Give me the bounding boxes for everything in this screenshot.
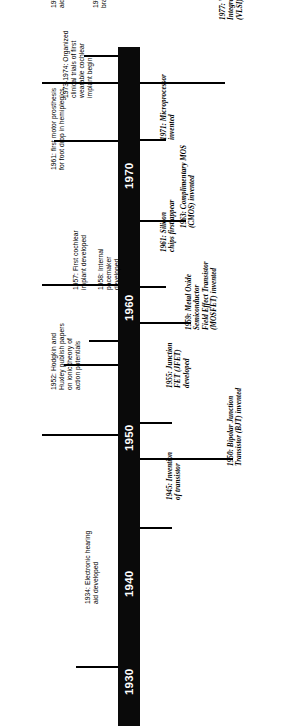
medical-event-line: 1958: Internal bbox=[97, 248, 105, 290]
medical-tick-1952 bbox=[42, 434, 118, 436]
electronics-event-1963: 1963: Complimentary MOS(CMOS) invented bbox=[180, 145, 197, 228]
electronics-event-line: Integrated Circuit bbox=[227, 0, 235, 20]
electronics-event-line: 1961: Silicon bbox=[160, 200, 168, 252]
electronics-event-1961: 1961: Siliconchips first appear bbox=[160, 200, 177, 252]
electronics-event-line: 1959: Metal Oxide bbox=[185, 261, 193, 330]
electronics-event-line: (VLSI) developed bbox=[236, 0, 244, 20]
medical-event-line: 1979: First auditory bbox=[92, 0, 100, 8]
electronics-event-line: (CMOS) invented bbox=[188, 145, 196, 228]
decade-label-1940: 1940 bbox=[118, 575, 140, 597]
medical-event-line: aid made available in Europe bbox=[58, 0, 66, 8]
medical-event-1979: 1979: First auditorybrainstem implant bbox=[92, 0, 108, 8]
electronics-event-line: FET (JFET) bbox=[174, 342, 182, 388]
medical-event-line: 1952: Hodgkin and bbox=[50, 323, 58, 390]
decade-label-1960: 1960 bbox=[118, 299, 140, 321]
medical-tick-1934 bbox=[76, 666, 118, 668]
medical-event-line: implant begin bbox=[86, 30, 94, 98]
electronics-event-1945: 1945: Inventionof transistor bbox=[166, 452, 183, 500]
electronics-event-line: invented bbox=[168, 74, 176, 140]
medical-event-line: developed bbox=[113, 248, 121, 290]
electronics-event-line: 1963: Complimentary MOS bbox=[180, 145, 188, 228]
electronics-event-line: Transistor (BJT) invented bbox=[235, 388, 243, 466]
medical-event-line: clinical trials of first bbox=[70, 30, 78, 98]
electronics-event-line: Field Effect Transistor bbox=[202, 261, 210, 330]
medical-event-line: 1957: First cochlear bbox=[72, 230, 80, 290]
electronics-event-line: developed bbox=[183, 342, 191, 388]
medical-event-1961: 1961: first motor prosthesisfor foot dro… bbox=[50, 88, 66, 170]
medical-event-line: action potentials bbox=[74, 323, 82, 390]
medical-event-1977: 1977: Bone-anchored hearingaid made avai… bbox=[50, 0, 66, 8]
electronics-event-1950: 1950: Bipolar JunctionTransistor (BJT) i… bbox=[227, 388, 244, 466]
electronics-event-line: chips first appear bbox=[168, 200, 176, 252]
electronics-tick-1959 bbox=[140, 322, 191, 324]
medical-event-line: for foot drop in hemiplegics bbox=[58, 88, 66, 170]
electronics-event-line: 1977: Very Large Scale bbox=[219, 0, 227, 20]
electronics-event-line: 1955: Junction bbox=[166, 342, 174, 388]
electronics-tick-1961 bbox=[140, 286, 166, 288]
decade-label-1970: 1970 bbox=[118, 167, 140, 189]
electronics-event-1955: 1955: JunctionFET (JFET)developed bbox=[166, 342, 191, 388]
medical-event-1958: 1958: Internalpacemakerdeveloped bbox=[97, 248, 121, 290]
medical-event-line: on ionic theory of bbox=[66, 323, 74, 390]
medical-event-1957: 1957: First cochlearimplant developed bbox=[72, 230, 88, 290]
electronics-event-line: 1945: Invention bbox=[166, 452, 174, 500]
electronics-event-1971: 1971: Microprocessorinvented bbox=[160, 74, 177, 140]
medical-event-line: 1961: first motor prosthesis bbox=[50, 88, 58, 170]
electronics-event-line: Semiconductor bbox=[193, 261, 201, 330]
electronics-event-line: 1971: Microprocessor bbox=[160, 74, 168, 140]
electronics-event-line: 1950: Bipolar Junction bbox=[227, 388, 235, 466]
medical-event-1952: 1952: Hodgkin andHuxley publish paperson… bbox=[50, 323, 82, 390]
medical-event-line: implant developed bbox=[80, 230, 88, 290]
timeline-axis-bar bbox=[118, 47, 140, 726]
electronics-event-1959: 1959: Metal OxideSemiconductorField Effe… bbox=[185, 261, 219, 330]
electronics-tick-1950 bbox=[140, 458, 233, 460]
medical-event-line: Huxley publish papers bbox=[58, 323, 66, 390]
medical-event-line: pacemaker bbox=[105, 248, 113, 290]
medical-event-line: aid developed bbox=[92, 531, 100, 604]
electronics-event-line: (MOSFET) invented bbox=[210, 261, 218, 330]
electronics-tick-1955 bbox=[140, 422, 172, 424]
electronics-tick-1977 bbox=[140, 82, 225, 84]
electronics-event-line: of transistor bbox=[174, 452, 182, 500]
medical-event-1973-1974: 1973-1974: Organizedclinical trials of f… bbox=[62, 30, 94, 98]
decade-label-1930: 1930 bbox=[118, 673, 140, 695]
medical-tick-1958 bbox=[89, 340, 118, 342]
electronics-tick-1945 bbox=[140, 527, 172, 529]
medical-event-line: brainstem implant bbox=[100, 0, 108, 8]
medical-event-line: 1934: Electronic hearing bbox=[84, 531, 92, 604]
medical-event-line: 1977: Bone-anchored hearing bbox=[50, 0, 58, 8]
decade-label-1950: 1950 bbox=[118, 429, 140, 451]
medical-event-line: wearable cochlear bbox=[78, 30, 86, 98]
electronics-event-1977: 1977: Very Large ScaleIntegrated Circuit… bbox=[219, 0, 244, 20]
timeline-figure: 19301940195019601970 1979: First auditor… bbox=[0, 0, 281, 726]
medical-event-1934: 1934: Electronic hearingaid developed bbox=[84, 531, 100, 604]
